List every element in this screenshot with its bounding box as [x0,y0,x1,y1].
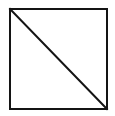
square-with-diagonal-figure [0,0,115,116]
figure-canvas: Square with one diagonal [0,0,115,116]
